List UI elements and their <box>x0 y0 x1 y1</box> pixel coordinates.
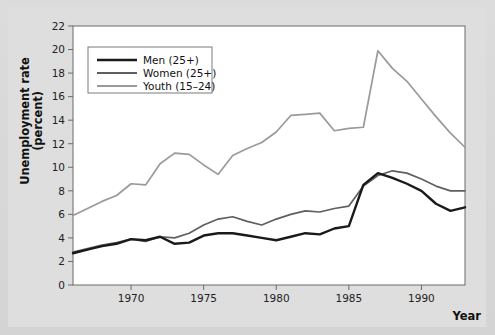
y-tick-label: 12 <box>52 138 65 150</box>
y-axis-label: Unemployment rate (percent) <box>19 21 45 221</box>
y-tick-label: 10 <box>52 161 65 173</box>
x-tick-label: 1970 <box>118 292 145 304</box>
legend-label-0: Men (25+) <box>143 54 199 66</box>
line-chart-svg: 0246810121416182022 19701975198019851990… <box>0 0 495 335</box>
x-tick-label: 1990 <box>408 292 435 304</box>
y-tick-label: 0 <box>58 279 65 291</box>
legend-label-2: Youth (15–24) <box>142 80 215 92</box>
y-tick-label: 20 <box>52 43 65 55</box>
x-tick-label: 1975 <box>190 292 217 304</box>
y-axis-label-line2: (percent) <box>31 91 45 151</box>
y-tick-label: 22 <box>52 20 65 32</box>
y-axis-label-line1: Unemployment rate <box>18 57 32 184</box>
y-tick-label: 18 <box>52 67 65 79</box>
x-tick-label: 1985 <box>335 292 362 304</box>
y-tick-label: 16 <box>52 90 66 102</box>
y-tick-label: 6 <box>58 208 65 220</box>
legend-items: Men (25+)Women (25+)Youth (15–24) <box>97 54 216 92</box>
y-axis-ticks: 0246810121416182022 <box>52 20 73 291</box>
figure-container: Unemployment rate (percent) Year 0246810… <box>0 0 495 335</box>
y-tick-label: 14 <box>52 114 66 126</box>
x-axis-ticks: 19701975198019851990 <box>118 285 435 304</box>
y-tick-label: 4 <box>58 232 65 244</box>
x-axis-label: Year <box>452 309 481 323</box>
chart-area: Unemployment rate (percent) Year 0246810… <box>0 0 495 335</box>
legend-label-1: Women (25+) <box>143 67 216 79</box>
x-tick-label: 1980 <box>263 292 290 304</box>
y-tick-label: 8 <box>58 185 65 197</box>
y-tick-label: 2 <box>58 255 65 267</box>
